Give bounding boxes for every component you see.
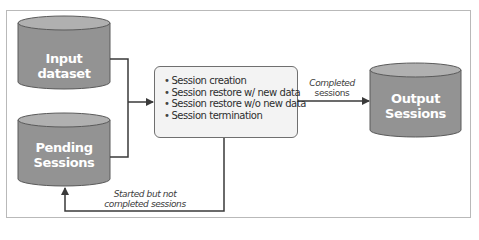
processor-step: Session creation [164,75,297,87]
pending-label-line1: Pending [18,140,110,155]
session-processor-box: Session creation Session restore w/ new … [154,66,298,138]
processor-step: Session restore w/ new data [164,87,297,99]
incomplete-label-line1: Started but not [95,189,195,199]
processor-steps-list: Session creation Session restore w/ new … [164,75,297,121]
incomplete-sessions-label: Started but not completed sessions [95,189,195,209]
processor-step: Session termination [164,110,297,122]
pending-sessions-label: Pending Sessions [18,140,110,170]
output-sessions-label: Output Sessions [370,91,461,121]
completed-sessions-label: Completed sessions [302,78,362,98]
incomplete-label-line2: completed sessions [95,199,195,209]
completed-label-line1: Completed [302,78,362,88]
output-label-line2: Sessions [370,106,461,121]
output-label-line1: Output [370,91,461,106]
completed-label-line2: sessions [302,88,362,98]
connector-input-pending-to-processor [110,59,153,157]
input-dataset-label: Input dataset [18,51,110,81]
pending-label-line2: Sessions [18,155,110,170]
processor-step: Session restore w/o new data [164,98,297,110]
